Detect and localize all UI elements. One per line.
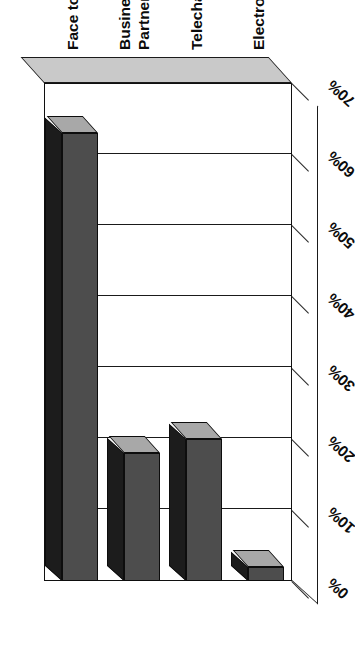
chart-screenshot: 0%10%20%30%40%50%60%70% Face to FaceBusi… [0, 0, 355, 667]
category-label-2: Telechannel [188, 0, 207, 50]
bar-front-face [124, 453, 160, 581]
bar-top-face [169, 423, 186, 581]
bar-0 [62, 133, 98, 581]
category-label-0: Face to Face [64, 0, 83, 50]
value-tick-label: 40% [324, 290, 355, 340]
bar-front-face [248, 567, 284, 581]
category-label-1: Business Partner [116, 0, 154, 50]
bar-top-face [45, 118, 62, 581]
value-tick-label: 30% [324, 361, 355, 411]
bar-3 [248, 567, 284, 581]
value-tick-label: 50% [324, 219, 355, 269]
chart-3d-back-wall [21, 57, 292, 83]
rotated-chart-canvas: 0%10%20%30%40%50%60%70% Face to FaceBusi… [0, 0, 355, 667]
bar-front-face [186, 439, 222, 581]
chart-3d-floor [292, 83, 318, 604]
gridline [45, 82, 291, 83]
bar-chart-figure: 0%10%20%30%40%50%60%70% Face to FaceBusi… [0, 0, 355, 667]
bar-2 [186, 439, 222, 581]
value-tick-label: 70% [324, 76, 355, 126]
value-tick-label: 10% [324, 503, 355, 553]
bar-front-face [62, 133, 98, 581]
value-tick-label: 20% [324, 432, 355, 482]
value-tick-label: 60% [324, 147, 355, 197]
bar-1 [124, 453, 160, 581]
category-label-3: Electronic [250, 0, 269, 50]
bar-top-face [107, 438, 124, 581]
value-tick-label: 0% [324, 574, 355, 624]
